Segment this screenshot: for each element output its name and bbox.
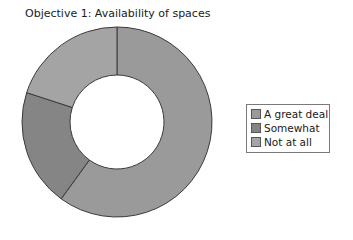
- donut-segment-not-at-all: [27, 27, 117, 107]
- legend-item-not-at-all: Not at all: [251, 135, 325, 149]
- legend-item-somewhat: Somewhat: [251, 121, 325, 135]
- legend-label: Somewhat: [264, 122, 320, 134]
- legend-label: A great deal: [264, 108, 328, 120]
- legend-swatch: [251, 137, 261, 147]
- legend-label: Not at all: [264, 136, 312, 148]
- legend-swatch: [251, 109, 261, 119]
- legend-item-a-great-deal: A great deal: [251, 107, 325, 121]
- legend-swatch: [251, 123, 261, 133]
- legend: A great deal Somewhat Not at all: [246, 104, 330, 153]
- donut-segments: [22, 27, 212, 217]
